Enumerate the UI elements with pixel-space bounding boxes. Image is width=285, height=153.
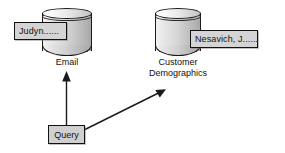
- record-label-customer-demographics: Nesavich, J......: [191, 34, 258, 44]
- arrow-query-to-customer-demographics: [85, 89, 166, 129]
- record-label-email: Judyn......: [15, 26, 59, 36]
- query-box[interactable]: Query: [48, 125, 85, 144]
- arrow-query-to-email: [62, 71, 71, 125]
- record-box-customer-demographics[interactable]: Nesavich, J......: [190, 30, 258, 48]
- query-label: Query: [54, 130, 79, 140]
- caption-email: Email: [48, 57, 86, 68]
- caption-customer-demographics: Customer Demographics: [143, 57, 213, 79]
- record-box-email[interactable]: Judyn......: [14, 22, 67, 40]
- diagram-canvas: Email Judyn...... Customer Demographics …: [0, 0, 285, 153]
